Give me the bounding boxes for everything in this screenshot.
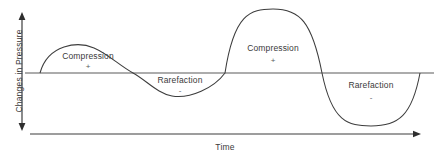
y-axis-arrow-up-icon: [19, 12, 26, 20]
pressure-wave-figure: Changes in Pressure Time Compression + R…: [0, 0, 434, 155]
y-axis-label: Changes in Pressure: [14, 29, 24, 112]
region-sign-compression-2: +: [271, 56, 276, 65]
x-axis-arrow-right-icon: [413, 131, 421, 137]
region-sign-compression-1: +: [86, 62, 91, 71]
region-sign-rarefaction-2: -: [370, 93, 373, 102]
sound-wave-curve: [40, 9, 420, 126]
region-label-compression-1: Compression: [62, 51, 114, 61]
x-axis-label: Time: [215, 142, 234, 152]
region-label-rarefaction-1: Rarefaction: [157, 75, 202, 85]
region-label-compression-2: Compression: [247, 43, 299, 53]
region-sign-rarefaction-1: -: [179, 86, 182, 95]
y-axis-arrow-down-icon: [19, 123, 26, 131]
region-label-rarefaction-2: Rarefaction: [348, 80, 393, 90]
wave-diagram-canvas: [0, 0, 434, 155]
